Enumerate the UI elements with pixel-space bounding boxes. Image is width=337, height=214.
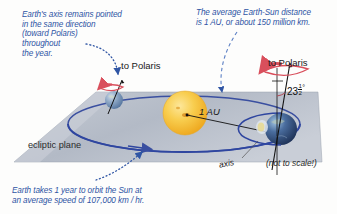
annotation-au-note: The average Earth-Sun distance is 1 AU, … <box>196 8 311 27</box>
diagram-canvas: Earth's axis remains pointed in the same… <box>0 0 337 214</box>
label-one-au: 1 AU <box>199 106 220 117</box>
annotation-line: an average speed of 107,000 km / hr. <box>12 196 144 206</box>
annotation-line: Earth's axis remains pointed <box>22 10 122 20</box>
label-to-polaris-left: to Polaris <box>121 60 161 71</box>
annotation-axis-note: Earth's axis remains pointed in the same… <box>22 10 122 58</box>
annotation-line: The average Earth-Sun distance <box>196 8 311 18</box>
annotation-line: (toward Polaris) <box>22 29 122 39</box>
leader-au-note <box>221 32 237 92</box>
annotation-line: Earth takes 1 year to orbit the Sun at <box>12 186 144 196</box>
annotation-line: the year. <box>22 49 122 59</box>
tilt-whole-number: 23 <box>287 86 298 97</box>
annotation-line: is 1 AU, or about 150 million km. <box>196 18 311 28</box>
label-ecliptic-plane: ecliptic plane <box>28 140 81 150</box>
label-axial-tilt: 2312° <box>287 83 305 97</box>
rotation-arrow-left <box>100 84 123 90</box>
label-to-polaris-right: to Polaris <box>268 57 308 68</box>
annotation-year-note: Earth takes 1 year to orbit the Sun at a… <box>12 186 144 205</box>
annotation-line: throughout <box>22 39 122 49</box>
annotation-line: in the same direction <box>22 20 122 30</box>
label-not-to-scale: (not to scale!) <box>266 158 317 168</box>
degree-symbol: ° <box>302 84 305 91</box>
